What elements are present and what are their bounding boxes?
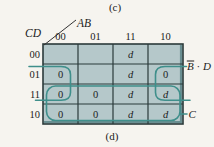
cell-r0c2: d (128, 49, 134, 60)
row-header-10: 10 (30, 109, 41, 120)
kmap-svg: (c) AB CD 00 01 11 10 (0, 0, 214, 147)
cell-r2c0: 0 (58, 89, 63, 100)
group-term-labels: B · D C (187, 60, 211, 120)
col-header-10: 10 (160, 31, 171, 42)
bd-label-var2: D (202, 60, 211, 72)
col-header-11: 11 (125, 31, 135, 42)
cell-r2c1: 0 (93, 89, 98, 100)
bd-label-operator: · (194, 60, 203, 72)
caption-top: (c) (109, 1, 122, 14)
col-header-01: 01 (90, 31, 101, 42)
cell-r3c1: 0 (93, 109, 98, 120)
group-c-label: C (189, 108, 197, 120)
cell-r3c3: d (163, 109, 169, 120)
row-header-11: 11 (30, 89, 40, 100)
row-header-00: 00 (30, 49, 41, 60)
cell-r1c0: 0 (58, 69, 63, 80)
row-headers: 00 01 11 10 (30, 49, 41, 120)
column-headers: 00 01 11 10 (55, 31, 171, 42)
col-header-00: 00 (55, 31, 66, 42)
cell-r2c3: d (163, 89, 169, 100)
caption-bottom: (d) (106, 130, 119, 143)
group-bd-label: B · D (187, 60, 211, 72)
cell-r1c3: 0 (163, 69, 168, 80)
cell-r3c0: 0 (58, 109, 63, 120)
col-axis-var: AB (76, 17, 91, 29)
cell-r2c2: d (128, 89, 134, 100)
cell-r3c2: d (128, 109, 134, 120)
kmap-figure: (c) AB CD 00 01 11 10 (0, 0, 214, 147)
row-header-01: 01 (30, 69, 41, 80)
cell-r1c2: d (128, 69, 134, 80)
row-axis-var: CD (25, 27, 42, 39)
